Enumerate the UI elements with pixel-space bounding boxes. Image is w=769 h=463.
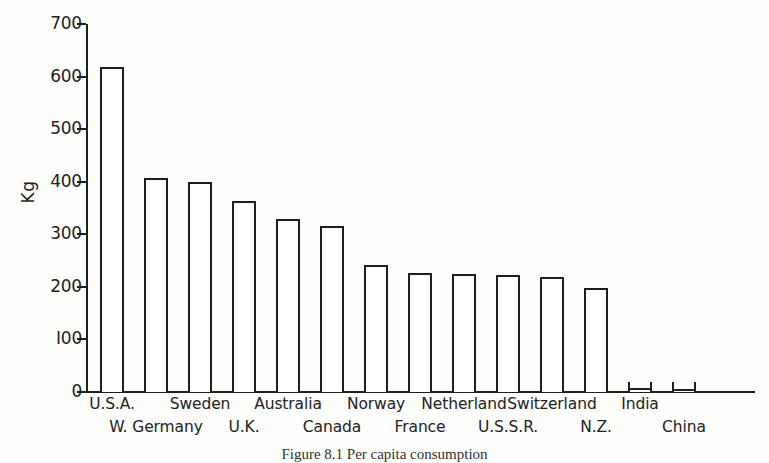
x-label-sweden: Sweden: [170, 395, 231, 413]
y-tick-mark: [77, 233, 86, 235]
bar-switzerland: [540, 277, 564, 392]
x-label-u-s-s-r: U.S.S.R.: [478, 418, 538, 436]
y-tick-mark: [77, 23, 86, 25]
x-label-norway: Norway: [347, 395, 405, 413]
bar-norway: [364, 265, 388, 392]
x-label-china: China: [662, 418, 706, 436]
x-label-w-germany: W. Germany: [109, 418, 203, 436]
y-axis-tick-labels: 700600500400300200I000: [20, 0, 82, 458]
x-label-australia: Australia: [254, 395, 322, 413]
y-tick-label-200: 200: [30, 278, 82, 295]
bar-series: [86, 24, 755, 392]
x-label-canada: Canada: [303, 418, 361, 436]
y-tick-label-300: 300: [30, 225, 82, 242]
y-tick-mark: [77, 181, 86, 183]
bar-france: [408, 273, 432, 392]
bar-sweden: [188, 182, 212, 392]
y-tick-label-600: 600: [30, 68, 82, 85]
bar-china: [672, 389, 696, 392]
figure-caption: Figure 8.1 Per capita consumption: [0, 446, 769, 463]
bar-u-s-s-r: [496, 275, 520, 392]
y-tick-label-700: 700: [30, 15, 82, 32]
y-tick-mark: [77, 338, 86, 340]
y-tick-mark: [77, 286, 86, 288]
x-label-netherland: Netherland: [421, 395, 506, 413]
x-label-n-z: N.Z.: [580, 418, 612, 436]
x-label-u-k: U.K.: [229, 418, 260, 436]
y-tick-label-500: 500: [30, 120, 82, 137]
x-label-india: India: [621, 395, 659, 413]
bar-n-z: [584, 288, 608, 392]
bar-netherland: [452, 274, 476, 392]
x-label-u-s-a: U.S.A.: [89, 395, 135, 413]
x-label-france: France: [395, 418, 446, 436]
bar-india: [628, 388, 652, 392]
bar-w-germany: [144, 178, 168, 392]
y-tick-label-100: I00: [30, 330, 82, 347]
bar-canada: [320, 226, 344, 392]
y-tick-mark: [77, 128, 86, 130]
y-tick-mark: [77, 76, 86, 78]
x-label-switzerland: Switzerland: [507, 395, 596, 413]
bar-u-k: [232, 201, 256, 392]
x-axis-category-labels: U.S.A.W. GermanySwedenU.K.AustraliaCanad…: [0, 393, 769, 443]
y-tick-label-400: 400: [30, 173, 82, 190]
bar-australia: [276, 219, 300, 392]
bar-u-s-a: [100, 67, 124, 392]
